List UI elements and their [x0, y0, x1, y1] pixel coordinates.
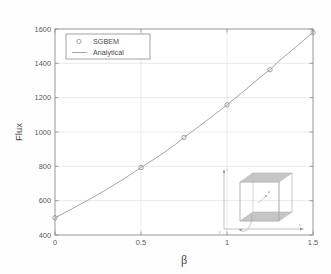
y-axis-label: Flux — [13, 123, 24, 141]
x-axis-label: β — [181, 253, 187, 267]
svg-text:1200: 1200 — [35, 93, 51, 102]
svg-text:600: 600 — [39, 196, 51, 205]
svg-text:400: 400 — [39, 231, 51, 240]
svg-text:1000: 1000 — [35, 128, 51, 137]
figure-canvas: 00.511.5 4006008001000120014001600 Flux … — [0, 0, 331, 274]
flux-vs-beta-chart: 00.511.5 4006008001000120014001600 Flux … — [0, 0, 331, 274]
legend-label-analytical: Analytical — [93, 48, 124, 57]
svg-text:0.5: 0.5 — [136, 238, 146, 247]
svg-text:1600: 1600 — [35, 25, 51, 34]
svg-text:0: 0 — [53, 238, 57, 247]
svg-text:1: 1 — [225, 238, 229, 247]
svg-text:1400: 1400 — [35, 59, 51, 68]
legend-label-sgbem: SGBEM — [93, 37, 119, 46]
inset-label-p: P — [268, 191, 270, 195]
svg-text:800: 800 — [39, 162, 51, 171]
svg-text:1.5: 1.5 — [308, 238, 318, 247]
legend: SGBEM Analytical — [66, 34, 150, 59]
